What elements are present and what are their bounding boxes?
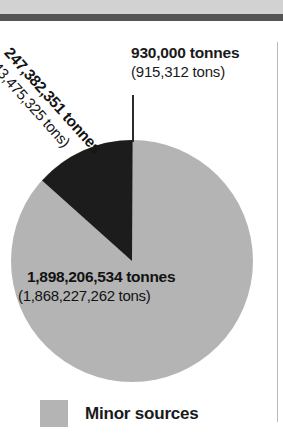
callout-major-source: 930,000 tonnes (915,312 tons) (131, 44, 281, 81)
right-vertical-rule (277, 42, 278, 422)
callout-light-minor-slice: 1,898,206,534 tonnes (1,868,227,262 tons… (27, 267, 257, 306)
callout-light-minor-tons: (1,868,227,262 tons) (18, 286, 257, 306)
callout-light-minor-tonnes: 1,898,206,534 tonnes (27, 267, 257, 286)
legend-label-minor-sources: Minor sources (85, 404, 199, 424)
pie-chart (11, 140, 253, 382)
top-band-decoration (0, 0, 283, 14)
callout-major-source-tonnes: 930,000 tonnes (131, 44, 281, 62)
chart-page: 930,000 tonnes (915,312 tons) 247,382,35… (0, 0, 283, 435)
legend-swatch-minor-sources (40, 400, 68, 427)
top-horizontal-rule (0, 14, 283, 21)
chart-legend: Minor sources (40, 400, 199, 427)
callout-major-source-tons: (915,312 tons) (131, 62, 281, 81)
callout-leader-line (132, 95, 134, 142)
